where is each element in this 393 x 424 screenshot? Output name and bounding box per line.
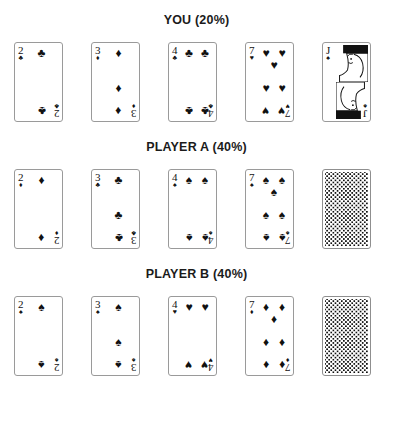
player-section-player-b: PLAYER B (40%)2♠2♠♠♠3♠3♠♠♠♠4♥4♥♥♥♥♥7♦7♦♦… — [0, 249, 393, 376]
pip-spades-icon: ♠ — [202, 174, 208, 186]
pip-clubs-icon: ♣ — [115, 209, 123, 221]
card-suit-diamonds-icon: ♦ — [96, 55, 100, 61]
player-hand: 2♦2♦♦♦3♣3♣♣♣♣4♠4♠♠♠♠♠7♠7♠♠♠♠♠♠♠♠ — [0, 169, 393, 249]
card-index-top-left: J♠ — [326, 45, 330, 61]
pip-spades-icon: ♠ — [115, 336, 121, 348]
card-suit-diamonds-icon: ♦ — [54, 230, 58, 236]
card-j-spades[interactable]: J♠J♠ — [322, 42, 371, 122]
card-index-bottom-right: 2♦ — [54, 230, 60, 246]
card-suit-spades-icon: ♠ — [250, 182, 254, 188]
pip-diamonds-icon: ♦ — [263, 336, 269, 348]
card-2-clubs[interactable]: 2♣2♣♣♣ — [14, 42, 63, 122]
card-suit-spades-icon: ♠ — [19, 309, 23, 315]
card-suit-diamonds-icon: ♦ — [250, 309, 254, 315]
pip-clubs-icon: ♣ — [201, 105, 209, 117]
card-3-clubs[interactable]: 3♣3♣♣♣♣ — [91, 169, 140, 249]
pip-diamonds-icon: ♦ — [263, 359, 269, 371]
pip-spades-icon: ♠ — [38, 301, 44, 313]
pip-hearts-icon: ♥ — [278, 47, 285, 59]
pip-diamonds-icon: ♦ — [271, 313, 277, 325]
pip-clubs-icon: ♣ — [185, 47, 193, 59]
pip-clubs-icon: ♣ — [201, 47, 209, 59]
card-3-spades[interactable]: 3♠3♠♠♠♠ — [91, 296, 140, 376]
card-face-down[interactable] — [322, 169, 371, 249]
pip-clubs-icon: ♣ — [115, 174, 123, 186]
card-pip-area: ♣♣ — [29, 47, 54, 117]
card-index-top-left: 4♠ — [172, 172, 178, 188]
player-section-you: YOU (20%)2♣2♣♣♣3♦3♦♦♦♦4♣4♣♣♣♣♣7♥7♥♥♥♥♥♥♥… — [0, 0, 393, 122]
pip-diamonds-icon: ♦ — [115, 105, 121, 117]
card-index-top-left: 3♣ — [95, 172, 101, 188]
card-pip-area: ♠♠ — [29, 301, 54, 371]
card-2-diamonds[interactable]: 2♦2♦♦♦ — [14, 169, 63, 249]
card-index-top-left: 3♠ — [95, 299, 101, 315]
pip-hearts-icon: ♥ — [262, 105, 269, 117]
pip-clubs-icon: ♣ — [185, 105, 193, 117]
card-suit-spades-icon: ♠ — [54, 357, 58, 363]
card-index-top-left: 3♦ — [95, 45, 101, 61]
card-index-bottom-right: 3♠ — [131, 357, 137, 373]
pip-spades-icon: ♠ — [279, 174, 285, 186]
pip-hearts-icon: ♥ — [185, 301, 192, 313]
card-7-diamonds[interactable]: 7♦7♦♦♦♦♦♦♦♦ — [245, 296, 294, 376]
card-7-spades[interactable]: 7♠7♠♠♠♠♠♠♠♠ — [245, 169, 294, 249]
card-index-top-left: 2♠ — [18, 299, 24, 315]
pip-hearts-icon: ♥ — [201, 359, 208, 371]
card-suit-hearts-icon: ♥ — [173, 309, 177, 315]
card-face-down[interactable] — [322, 296, 371, 376]
pip-hearts-icon: ♥ — [262, 82, 269, 94]
player-heading: PLAYER B (40%) — [0, 267, 393, 281]
card-back-pattern — [325, 172, 368, 246]
pip-spades-icon: ♠ — [186, 232, 192, 244]
card-pip-area: ♦♦ — [29, 174, 54, 244]
card-suit-diamonds-icon: ♦ — [19, 182, 23, 188]
card-suit-clubs-icon: ♣ — [54, 103, 59, 109]
card-pip-area: ♠♠♠♠ — [181, 174, 213, 244]
player-section-player-a: PLAYER A (40%)2♦2♦♦♦3♣3♣♣♣♣4♠4♠♠♠♠♠7♠7♠♠… — [0, 122, 393, 249]
pip-spades-icon: ♠ — [279, 209, 285, 221]
pip-diamonds-icon: ♦ — [115, 82, 121, 94]
court-figure-bottom-half — [336, 82, 368, 119]
card-suit-hearts-icon: ♥ — [250, 55, 254, 61]
pip-diamonds-icon: ♦ — [38, 174, 44, 186]
card-suit-spades-icon: ♠ — [131, 357, 135, 363]
player-heading: PLAYER A (40%) — [0, 140, 393, 154]
pip-diamonds-icon: ♦ — [263, 301, 269, 313]
card-4-clubs[interactable]: 4♣4♣♣♣♣♣ — [168, 42, 217, 122]
card-4-spades[interactable]: 4♠4♠♠♠♠♠ — [168, 169, 217, 249]
card-2-spades[interactable]: 2♠2♠♠♠ — [14, 296, 63, 376]
pip-spades-icon: ♠ — [263, 174, 269, 186]
card-7-hearts[interactable]: 7♥7♥♥♥♥♥♥♥♥ — [245, 42, 294, 122]
card-pip-area: ♠♠♠ — [106, 301, 131, 371]
card-index-top-left: 2♦ — [18, 172, 24, 188]
card-index-top-left: 2♣ — [18, 45, 24, 61]
pip-hearts-icon: ♥ — [201, 301, 208, 313]
pip-hearts-icon: ♥ — [278, 82, 285, 94]
court-figure-top-half — [336, 45, 368, 82]
pip-spades-icon: ♠ — [263, 232, 269, 244]
pip-spades-icon: ♠ — [38, 359, 44, 371]
pip-spades-icon: ♠ — [263, 209, 269, 221]
card-pip-area: ♥♥♥♥ — [181, 301, 213, 371]
pip-spades-icon: ♠ — [202, 232, 208, 244]
pip-diamonds-icon: ♦ — [279, 336, 285, 348]
pip-hearts-icon: ♥ — [262, 47, 269, 59]
pip-spades-icon: ♠ — [115, 359, 121, 371]
card-index-bottom-right: 2♠ — [54, 357, 60, 373]
pip-spades-icon: ♠ — [279, 232, 285, 244]
card-pip-area: ♥♥♥♥♥♥♥ — [258, 47, 290, 117]
pip-diamonds-icon: ♦ — [279, 359, 285, 371]
card-index-top-left: 4♥ — [172, 299, 178, 315]
pip-spades-icon: ♠ — [186, 174, 192, 186]
player-hand: 2♠2♠♠♠3♠3♠♠♠♠4♥4♥♥♥♥♥7♦7♦♦♦♦♦♦♦♦ — [0, 296, 393, 376]
card-suit-clubs-icon: ♣ — [95, 182, 100, 188]
card-3-diamonds[interactable]: 3♦3♦♦♦♦ — [91, 42, 140, 122]
card-pip-area: ♦♦♦ — [106, 47, 131, 117]
card-4-hearts[interactable]: 4♥4♥♥♥♥♥ — [168, 296, 217, 376]
card-pip-area: ♣♣♣ — [106, 174, 131, 244]
pip-spades-icon: ♠ — [115, 301, 121, 313]
player-heading: YOU (20%) — [0, 13, 393, 27]
card-index-top-left: 4♣ — [172, 45, 178, 61]
card-index-top-left: 7♥ — [249, 45, 255, 61]
card-pip-area: ♠♠♠♠♠♠♠ — [258, 174, 290, 244]
